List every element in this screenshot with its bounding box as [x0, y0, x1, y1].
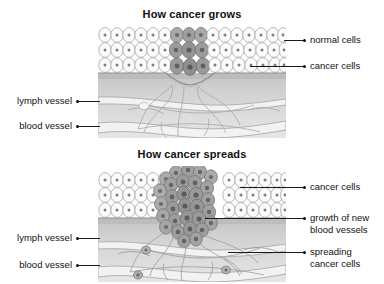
label-normal-cells: normal cells	[310, 34, 361, 46]
label-spreading-cancer-cells-line2: cancer cells	[310, 258, 360, 270]
panel-how-cancer-spreads: How cancer spreads	[0, 142, 384, 284]
label-spreading-cancer-cells-line1: spreading	[310, 246, 360, 258]
label-growth-new-blood-vessels-line2: blood vessels	[310, 224, 369, 236]
label-lymph-vessel: lymph vessel	[0, 232, 72, 244]
panel-title-how-cancer-grows: How cancer grows	[0, 8, 384, 20]
illustration-how-cancer-spreads	[98, 166, 286, 282]
leader-line-blood-vessel	[79, 126, 100, 127]
panel-how-cancer-grows: How cancer grows	[0, 0, 384, 142]
illustration-how-cancer-grows	[98, 26, 286, 138]
label-cancer-cells: cancer cells	[310, 181, 360, 193]
label-blood-vessel: blood vessel	[0, 120, 72, 132]
label-lymph-vessel: lymph vessel	[0, 95, 72, 107]
leader-dot-cancer-cells	[303, 65, 306, 68]
leader-line-spreading-cancer-cells	[228, 252, 304, 253]
leader-line-cancer-cells	[250, 66, 304, 67]
panel-title-how-cancer-spreads: How cancer spreads	[0, 148, 384, 160]
label-blood-vessel: blood vessel	[0, 259, 72, 271]
leader-dot-normal-cells	[303, 39, 306, 42]
label-growth-new-blood-vessels-line1: growth of new	[310, 212, 369, 224]
leader-line-cancer-cells	[240, 187, 304, 188]
label-growth-new-blood-vessels: growth of new blood vessels	[310, 212, 369, 235]
label-cancer-cells: cancer cells	[310, 60, 360, 72]
leader-dot-spreading-cancer-cells	[303, 251, 306, 254]
leader-line-normal-cells	[284, 40, 304, 41]
label-spreading-cancer-cells: spreading cancer cells	[310, 246, 360, 269]
leader-line-lymph-vessel	[79, 101, 100, 102]
leader-dot-growth-new-blood-vessels	[303, 217, 306, 220]
leader-line-blood-vessel	[79, 265, 100, 266]
leader-dot-cancer-cells	[303, 186, 306, 189]
leader-line-lymph-vessel	[79, 238, 100, 239]
leader-line-growth-new-blood-vessels	[205, 218, 304, 219]
